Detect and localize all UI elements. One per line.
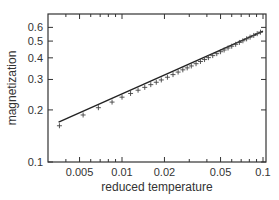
y-tick-label: 0.3 (28, 73, 43, 85)
y-tick-label: 0.6 (28, 21, 43, 33)
data-point (154, 80, 159, 85)
y-tick-label: 0.4 (28, 52, 43, 64)
x-tick-label: 0.02 (154, 166, 175, 178)
y-tick-label: 0.1 (28, 156, 43, 168)
data-point (57, 123, 62, 128)
data-point (142, 85, 147, 90)
y-axis-label: magnetization (5, 51, 19, 126)
data-point (171, 72, 176, 77)
x-tick-label: 0.005 (66, 166, 94, 178)
x-tick-label: 0.1 (255, 166, 270, 178)
x-tick-label: 0.01 (111, 166, 132, 178)
y-axis: 0.10.20.30.40.50.6 (28, 21, 266, 168)
x-tick-label: 0.05 (210, 166, 231, 178)
data-markers (57, 30, 263, 129)
data-point (165, 75, 170, 80)
y-tick-label: 0.2 (28, 104, 43, 116)
x-axis: 0.0050.010.020.050.1 (66, 14, 271, 178)
x-axis-label: reduced temperature (101, 180, 213, 194)
data-point (128, 91, 133, 96)
y-tick-label: 0.5 (28, 35, 43, 47)
data-point (136, 88, 141, 93)
chart: 0.0050.010.020.050.1 0.10.20.30.40.50.6 … (0, 0, 279, 200)
data-point (81, 112, 86, 117)
data-point (110, 100, 115, 105)
plot-frame (48, 14, 266, 162)
fit-line (59, 31, 263, 122)
data-point (148, 82, 153, 87)
data-point (159, 77, 164, 82)
